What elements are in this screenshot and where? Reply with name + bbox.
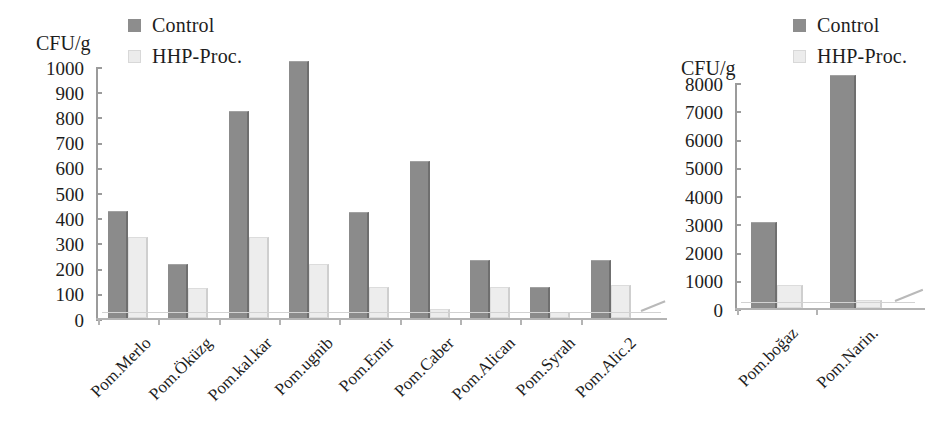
legend-label-hhp: HHP-Proc.: [817, 46, 907, 66]
bar-hhp: [856, 300, 882, 308]
y-tick-label: 8000: [685, 75, 735, 94]
control-swatch-icon: [128, 19, 141, 32]
bar-hhp: [430, 309, 450, 318]
y-tick-label: 0: [714, 301, 736, 320]
x-tick-label: Pom.boğaz: [735, 324, 801, 390]
y-tick-label: 100: [56, 285, 97, 304]
x-tick-label: Pom.Emir: [335, 334, 396, 395]
y-tick-label: 800: [56, 109, 97, 128]
left-chart-legend: Control HHP-Proc.: [128, 14, 242, 67]
left-x-tick-labels: Pom.MerloPom.ÖküzgPom.kal.karPom.ugnibPo…: [96, 320, 641, 420]
y-tick-label: 5000: [685, 159, 735, 178]
legend-item-control: Control: [793, 14, 907, 36]
right-x-tick-labels: Pom.boğazPom.Narin.: [735, 310, 895, 410]
x-tick-label: Pom.kal.kar: [205, 334, 275, 404]
bar-control: [530, 287, 550, 319]
bar-control: [830, 75, 856, 308]
bar-control: [349, 212, 369, 318]
x-tick-label: Pom.Alic.2: [572, 334, 639, 401]
bar-hhp: [490, 287, 510, 319]
legend-item-control: Control: [128, 14, 242, 36]
y-tick-label: 7000: [685, 103, 735, 122]
x-tick-label: Pom.Syrah: [513, 334, 578, 399]
bar-group: [816, 84, 895, 308]
y-tick-label: 1000: [46, 59, 96, 78]
bar-control: [591, 260, 611, 318]
y-tick-label: 500: [56, 185, 97, 204]
control-swatch-icon: [793, 19, 806, 32]
bar-hhp: [309, 264, 329, 318]
left-bar-groups: [98, 68, 641, 318]
legend-item-hhp: HHP-Proc.: [793, 45, 907, 67]
baseline-back-edge: [741, 302, 915, 303]
y-tick-label: 900: [56, 84, 97, 103]
right-chart-panel: Control HHP-Proc. CFU/g 8000700060005000…: [660, 0, 920, 423]
bar-hhp: [249, 237, 269, 318]
x-tick-label: Pom.Alican: [449, 334, 518, 403]
y-tick-label: 700: [56, 134, 97, 153]
y-tick-label: 0: [75, 311, 97, 330]
bar-hhp: [777, 285, 803, 308]
bar-hhp: [188, 288, 208, 318]
y-tick-label: 400: [56, 210, 97, 229]
x-tick-label: Pom.Öküzg: [146, 334, 215, 403]
left-y-axis-title: CFU/g: [36, 33, 90, 53]
left-chart-panel: Control HHP-Proc. CFU/g 1000900800700600…: [0, 0, 660, 423]
y-tick-label: 6000: [685, 131, 735, 150]
legend-label-control: Control: [817, 15, 880, 35]
bar-control: [229, 111, 249, 318]
right-plot-area: 800070006000500040003000200010000 Pom.bo…: [735, 84, 895, 310]
y-tick-label: 1000: [685, 272, 735, 291]
bar-group: [279, 68, 339, 318]
bar-group: [520, 68, 580, 318]
hhp-swatch-icon: [793, 50, 806, 63]
left-plot-area: 10009008007006005004003002001000 Pom.Mer…: [96, 68, 641, 320]
bar-group: [737, 84, 816, 308]
y-tick-label: 600: [56, 159, 97, 178]
right-chart-legend: Control HHP-Proc.: [793, 14, 907, 67]
hhp-swatch-icon: [128, 50, 141, 63]
bar-control: [168, 264, 188, 318]
x-tick-label: Pom.ugnib: [272, 334, 336, 398]
bar-control: [108, 211, 128, 318]
y-tick-label: 200: [56, 260, 97, 279]
y-tick-label: 300: [56, 235, 97, 254]
legend-label-hhp: HHP-Proc.: [152, 46, 242, 66]
bar-group: [339, 68, 399, 318]
bar-hhp: [611, 285, 631, 318]
bar-group: [158, 68, 218, 318]
legend-item-hhp: HHP-Proc.: [128, 45, 242, 67]
bar-group: [581, 68, 641, 318]
bar-control: [470, 260, 490, 318]
baseline-back-edge: [102, 312, 661, 313]
y-tick-label: 3000: [685, 216, 735, 235]
baseline-perspective-edge: [895, 289, 924, 302]
bar-group: [400, 68, 460, 318]
bar-hhp: [128, 237, 148, 318]
legend-label-control: Control: [152, 15, 215, 35]
bar-group: [98, 68, 158, 318]
y-tick-label: 2000: [685, 244, 735, 263]
bar-hhp: [369, 287, 389, 319]
right-bar-groups: [737, 84, 895, 308]
bar-control: [289, 61, 309, 318]
x-tick-label: Pom.Narin.: [814, 324, 881, 391]
bar-group: [460, 68, 520, 318]
bar-control: [751, 222, 777, 308]
bar-group: [219, 68, 279, 318]
y-tick-label: 4000: [685, 188, 735, 207]
bar-control: [410, 161, 430, 319]
